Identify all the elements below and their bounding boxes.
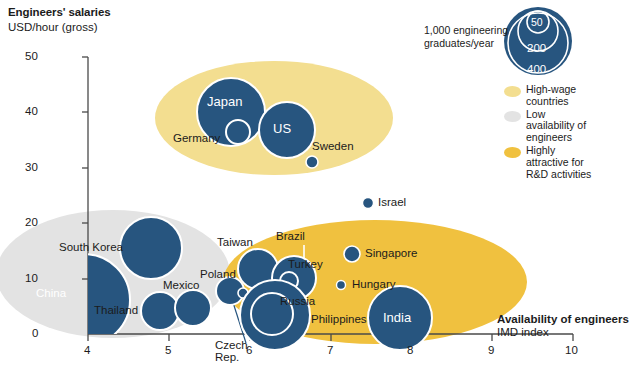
legend-swatch-highly-attractive [504,147,521,158]
x-tick-label-10: 10 [565,344,578,356]
size-legend-label-50: 50 [531,16,543,28]
bubble-label-philippines: Philippines [311,313,367,325]
size-legend-label-200: 200 [527,42,546,54]
y-tick-label-30: 30 [25,161,38,173]
bubble-hungary[interactable] [337,281,346,290]
category-legend: High-wage countries Low availability of … [504,84,592,181]
bubble-label-mexico: Mexico [163,279,199,291]
legend-label-highly-attractive: Highly attractive for R&D activities [526,145,592,180]
bubble-label-russia: Russia [280,295,315,307]
x-tick-label-9: 9 [488,344,494,356]
bubble-label-thailand: Thailand [94,304,138,316]
bubble-label-germany: Germany [173,132,220,144]
size-legend-label-400: 400 [527,63,546,75]
legend-swatch-high-wage [504,86,521,97]
y-tick-label-10: 10 [25,272,38,284]
x-tick-label-4: 4 [84,344,90,356]
bubble-south-korea[interactable] [120,217,182,279]
legend-label-high-wage: High-wage countries [526,84,592,108]
y-tick-label-50: 50 [25,50,38,62]
size-legend-caption: 1,000 engineering graduates/year [424,24,508,49]
legend-label-low-availability: Low availability of engineers [526,109,592,144]
legend-swatch-low-availability [504,111,521,122]
bubble-label-south-korea: South Korea [59,241,123,253]
y-tick-label-20: 20 [25,216,38,228]
bubble-label-turkey: Turkey [288,258,323,270]
bubble-label-taiwan: Taiwan [217,236,253,248]
bubble-label-hungary: Hungary [352,278,395,290]
x-tick-label-5: 5 [165,344,171,356]
bubble-label-india: India [383,310,411,325]
size-legend-line1: 1,000 engineering [424,24,508,36]
page-title: Engineers' salaries [8,6,110,18]
bubble-label-poland: Poland [200,268,236,280]
size-legend-line2: graduates/year [424,37,494,49]
legend-item-high-wage[interactable]: High-wage countries [504,84,592,108]
bubble-label-sweden: Sweden [312,140,354,152]
bubble-sweden[interactable] [306,156,318,168]
x-tick-label-7: 7 [327,344,333,356]
x-axis-title-line1: Availability of engineers [497,313,629,325]
y-tick-label-40: 40 [25,105,38,117]
x-axis-title-units: IMD index [497,326,549,338]
bubble-label-us: US [273,121,291,136]
y-tick-label-0: 0 [32,327,38,339]
bubble-thailand[interactable] [141,292,179,330]
bubble-label-israel: Israel [378,196,406,208]
bubble-label-singapore: Singapore [365,247,417,259]
legend-item-low-availability[interactable]: Low availability of engineers [504,109,592,144]
bubble-germany[interactable] [226,120,250,144]
bubble-mexico[interactable] [175,290,211,326]
bubble-singapore[interactable] [344,246,360,262]
bubble-israel[interactable] [363,198,374,209]
bubble-label-japan: Japan [207,94,242,109]
bubble-label-czech-rep: Czech Rep. [215,339,259,363]
bubble-label-china: China [36,287,66,299]
x-tick-label-8: 8 [407,344,413,356]
legend-item-highly-attractive[interactable]: Highly attractive for R&D activities [504,145,592,180]
bubble-label-brazil: Brazil [276,230,305,242]
x-axis-title: Availability of engineers IMD index [497,313,629,339]
y-axis-title: USD/hour (gross) [8,21,97,33]
